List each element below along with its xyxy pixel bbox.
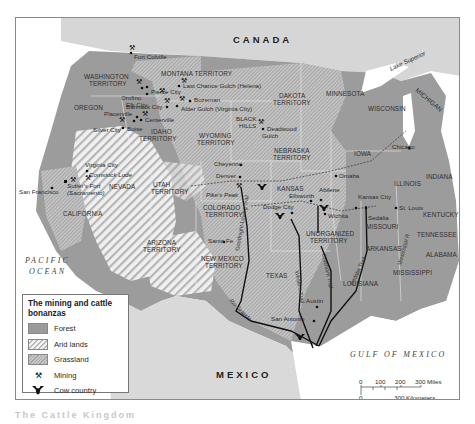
svg-text:Kansas City: Kansas City	[358, 193, 392, 200]
label-arizona: ARIZONATERRITORY	[143, 239, 181, 253]
svg-text:Cheyenne: Cheyenne	[214, 160, 243, 167]
legend-item-grassland: Grassland	[28, 352, 123, 368]
svg-text:Alder Gulch (Virginia City): Alder Gulch (Virginia City)	[181, 105, 252, 112]
svg-text:San Antonio: San Antonio	[271, 315, 305, 322]
svg-text:⚒: ⚒	[159, 87, 165, 94]
svg-text:100: 100	[375, 378, 386, 385]
label-indiana: INDIANA	[426, 173, 453, 180]
label-pacific: PACIFIC	[24, 256, 70, 265]
svg-text:⚒: ⚒	[142, 110, 148, 117]
svg-text:300 Kilometers: 300 Kilometers	[394, 394, 435, 400]
svg-text:Comstock Lode: Comstock Lode	[89, 171, 133, 178]
svg-text:Chicago: Chicago	[392, 143, 415, 150]
label-kansas: KANSAS	[277, 185, 304, 192]
label-minnesota: MINNESOTA	[326, 90, 365, 97]
label-arkansas: ARKANSAS	[366, 245, 402, 252]
svg-text:⚒: ⚒	[258, 118, 264, 125]
svg-text:Omaha: Omaha	[339, 172, 360, 179]
grassland-swatch	[28, 354, 48, 365]
svg-text:Last Chance Gulch (Helena): Last Chance Gulch (Helena)	[183, 82, 261, 89]
svg-text:Centerville: Centerville	[145, 116, 175, 123]
legend-item-arid: Arid lands	[28, 337, 123, 353]
label-texas: TEXAS	[266, 272, 287, 279]
svg-text:0: 0	[359, 394, 363, 400]
svg-text:Austin: Austin	[306, 297, 324, 304]
svg-text:San Francisco: San Francisco	[19, 188, 59, 195]
mining-icon: ⚒	[28, 371, 48, 380]
label-mexico: MEXICO	[216, 369, 271, 380]
cow-country-icon	[28, 386, 48, 395]
legend: The mining and cattle bonanzas Forest Ar…	[22, 294, 129, 393]
svg-text:⚒: ⚒	[179, 95, 185, 102]
svg-text:0: 0	[359, 378, 363, 385]
label-wyoming: WYOMINGTERRITORY	[197, 132, 235, 146]
svg-text:Virginia City: Virginia City	[85, 161, 119, 168]
svg-text:Sedalia: Sedalia	[368, 214, 389, 221]
arid-swatch	[28, 339, 48, 350]
label-gulf: GULF OF MEXICO	[350, 350, 447, 359]
svg-text:Orofino: Orofino	[121, 94, 142, 101]
label-iowa: IOWA	[354, 150, 372, 157]
svg-text:Boise: Boise	[127, 125, 143, 132]
svg-text:Abilene: Abilene	[319, 186, 340, 193]
caption: The Cattle Kingdom	[15, 410, 136, 420]
svg-text:Ellsworth: Ellsworth	[289, 192, 315, 199]
svg-text:⚒: ⚒	[70, 176, 76, 183]
svg-text:⚒: ⚒	[129, 44, 135, 51]
label-kentucky: KENTUCKY	[423, 211, 459, 218]
svg-text:200: 200	[395, 378, 406, 385]
label-ocean: OCEAN	[29, 267, 66, 276]
svg-text:⚒: ⚒	[164, 97, 170, 104]
svg-text:Pike's Peak: Pike's Peak	[206, 191, 239, 198]
legend-item-cow-country: Cow country	[28, 383, 123, 399]
svg-text:St. Louis: St. Louis	[399, 204, 423, 211]
label-nevada: NEVADA	[109, 183, 136, 190]
label-nebraska: NEBRASKATERRITORY	[273, 147, 311, 161]
legend-item-mining: ⚒ Mining	[28, 368, 123, 384]
svg-text:⚒: ⚒	[85, 174, 91, 181]
svg-text:Bannack City: Bannack City	[126, 103, 163, 110]
svg-text:Bozeman: Bozeman	[194, 96, 221, 103]
svg-text:⚒: ⚒	[236, 182, 242, 189]
label-missouri: MISSOURI	[366, 223, 399, 230]
svg-text:Sutter's Fort: Sutter's Fort	[67, 182, 101, 189]
legend-title: The mining and cattle bonanzas	[28, 299, 123, 318]
svg-text:Santa Fe: Santa Fe	[208, 237, 234, 244]
label-black-hills: BLACKHILLS	[236, 115, 257, 129]
label-tennessee: TENNESSEE	[417, 231, 457, 238]
label-illinois: ILLINOIS	[394, 180, 421, 187]
svg-text:⚒: ⚒	[181, 77, 187, 84]
label-california: CALIFORNIA	[63, 210, 103, 217]
label-canada: CANADA	[233, 34, 292, 45]
legend-item-forest: Forest	[28, 321, 123, 337]
svg-text:Pierce City: Pierce City	[151, 88, 182, 95]
svg-text:(Sacramento): (Sacramento)	[67, 189, 104, 196]
label-unorganized: UNORGANIZEDTERRITORY	[306, 230, 355, 244]
svg-text:⚒: ⚒	[136, 78, 142, 85]
label-alabama: ALABAMA	[426, 251, 458, 258]
label-wisconsin: WISCONSIN	[368, 105, 406, 112]
forest-swatch	[28, 323, 48, 334]
svg-text:Dodge City: Dodge City	[263, 203, 295, 210]
svg-text:Silver City: Silver City	[93, 126, 122, 133]
svg-text:Fort Colville: Fort Colville	[134, 53, 167, 60]
label-new-mexico: NEW MEXICOTERRITORY	[201, 255, 244, 269]
label-washington: WASHINGTONTERRITORY	[84, 73, 129, 87]
label-colorado: COLORADOTERRITORY	[203, 204, 243, 218]
svg-text:300 Miles: 300 Miles	[415, 378, 441, 385]
svg-text:⚒: ⚒	[119, 116, 125, 123]
label-oregon: OREGON	[74, 104, 103, 111]
svg-text:Wichita: Wichita	[328, 212, 349, 219]
label-mississippi: MISSISSIPPI	[393, 269, 432, 276]
label-montana: MONTANA TERRITORY	[161, 70, 233, 77]
svg-text:Denver: Denver	[216, 172, 236, 179]
